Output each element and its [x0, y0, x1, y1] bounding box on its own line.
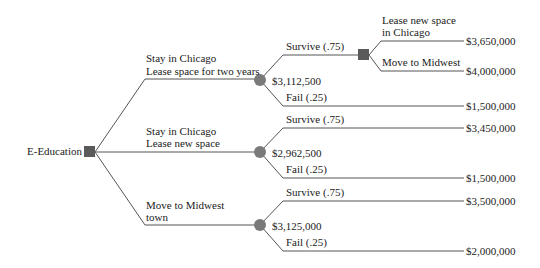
root-decision-node-icon: [84, 146, 95, 157]
root-label: E-Education: [27, 145, 82, 158]
chance-node-1-value: $3,112,500: [272, 75, 321, 88]
edge-branch-3: [95, 152, 258, 225]
b2-fail-label: Fail (.25): [286, 163, 327, 176]
sub-option-1-label-line2: in Chicago: [382, 26, 430, 39]
b1-survive-label: Survive (.75): [286, 40, 344, 53]
tree-edges: [0, 0, 540, 268]
chance-node-2-value: $2,962,500: [272, 147, 322, 160]
sub-option-1-payoff: $3,650,000: [466, 35, 516, 48]
branch-1-label-line1: Stay in Chicago: [146, 52, 216, 65]
chance-node-3-value: $3,125,000: [272, 220, 322, 233]
b1-fail-payoff: $1,500,000: [466, 100, 516, 113]
edge-b1-lease-new: [369, 41, 464, 55]
sub-option-2-label: Move to Midwest: [382, 56, 460, 69]
b2-survive-label: Survive (.75): [286, 113, 344, 126]
branch-3-label-line2: town: [146, 211, 168, 224]
chance-node-2-icon: [254, 146, 266, 158]
branch-2-label-line2: Lease new space: [146, 137, 220, 150]
branch-1-label-line2: Lease space for two years: [146, 65, 260, 78]
chance-node-3-icon: [254, 219, 266, 231]
b3-survive-payoff: $3,500,000: [466, 195, 516, 208]
b1-fail-label: Fail (.25): [286, 91, 327, 104]
b2-fail-payoff: $1,500,000: [466, 172, 516, 185]
sub-decision-node-icon: [358, 49, 369, 60]
b3-fail-label: Fail (.25): [286, 236, 327, 249]
b3-fail-payoff: $2,000,000: [466, 245, 516, 258]
b2-survive-payoff: $3,450,000: [466, 122, 516, 135]
b3-survive-label: Survive (.75): [286, 186, 344, 199]
decision-tree: E-Education Stay in Chicago Lease space …: [0, 0, 540, 268]
sub-option-2-payoff: $4,000,000: [466, 65, 516, 78]
